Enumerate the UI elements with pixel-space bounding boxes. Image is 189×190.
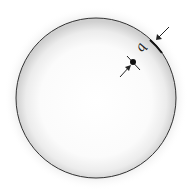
sphere-diagram: q	[0, 0, 189, 190]
point-charge	[130, 59, 136, 65]
